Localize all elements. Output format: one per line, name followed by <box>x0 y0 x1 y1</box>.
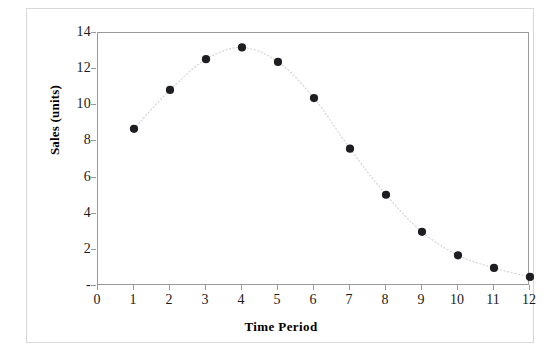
trendline <box>134 47 530 277</box>
x-axis-tick-labels: 0123456789101112 <box>27 293 535 313</box>
y-tick-label: 12 <box>61 61 91 75</box>
y-tick-label: 4 <box>61 206 91 220</box>
x-tick-label: 2 <box>149 293 189 307</box>
x-tick-label: 3 <box>185 293 225 307</box>
x-tick-mark <box>313 285 314 290</box>
x-tick-label: 6 <box>293 293 333 307</box>
x-tick-mark <box>241 285 242 290</box>
y-tick-mark <box>91 285 96 286</box>
y-tick-label: 2 <box>61 242 91 256</box>
x-tick-label: 12 <box>509 293 549 307</box>
data-point <box>418 228 426 236</box>
y-tick-mark <box>91 213 96 214</box>
y-tick-mark <box>91 68 96 69</box>
y-tick-mark <box>91 177 96 178</box>
x-tick-mark <box>349 285 350 290</box>
x-tick-label: 7 <box>329 293 369 307</box>
y-tick-label: 14 <box>61 25 91 39</box>
data-point <box>238 43 246 51</box>
x-tick-label: 5 <box>257 293 297 307</box>
x-tick-label: 4 <box>221 293 261 307</box>
data-point <box>526 273 534 281</box>
x-tick-label: 8 <box>365 293 405 307</box>
data-point <box>382 191 390 199</box>
x-tick-label: 0 <box>77 293 117 307</box>
x-tick-mark <box>97 285 98 290</box>
data-point <box>346 145 354 153</box>
x-axis-title: Time Period <box>27 319 535 335</box>
y-tick-label: 6 <box>61 170 91 184</box>
data-point <box>130 125 138 133</box>
y-tick-mark <box>91 140 96 141</box>
x-tick-mark <box>529 285 530 290</box>
x-tick-label: 10 <box>437 293 477 307</box>
x-tick-mark <box>133 285 134 290</box>
x-tick-mark <box>205 285 206 290</box>
scatter-plot-svg <box>98 33 530 286</box>
data-point <box>490 264 498 272</box>
x-tick-label: 11 <box>473 293 513 307</box>
y-tick-label: 10 <box>61 97 91 111</box>
y-tick-mark <box>91 249 96 250</box>
data-point <box>166 86 174 94</box>
x-tick-mark <box>493 285 494 290</box>
chart-figure: -2468101214 0123456789101112 Sales (unit… <box>26 8 534 343</box>
data-point <box>202 55 210 63</box>
y-tick-label: - <box>61 278 91 292</box>
data-point <box>274 58 282 66</box>
x-tick-mark <box>169 285 170 290</box>
x-tick-mark <box>277 285 278 290</box>
plot-area <box>97 32 529 285</box>
x-tick-label: 1 <box>113 293 153 307</box>
y-axis-title: Sales (units) <box>47 40 63 200</box>
data-point-group <box>130 43 534 281</box>
x-tick-mark <box>457 285 458 290</box>
x-tick-mark <box>385 285 386 290</box>
x-tick-mark <box>421 285 422 290</box>
data-point <box>454 251 462 259</box>
y-tick-label: 8 <box>61 133 91 147</box>
x-tick-label: 9 <box>401 293 441 307</box>
y-tick-mark <box>91 32 96 33</box>
y-tick-mark <box>91 104 96 105</box>
data-point <box>310 94 318 102</box>
